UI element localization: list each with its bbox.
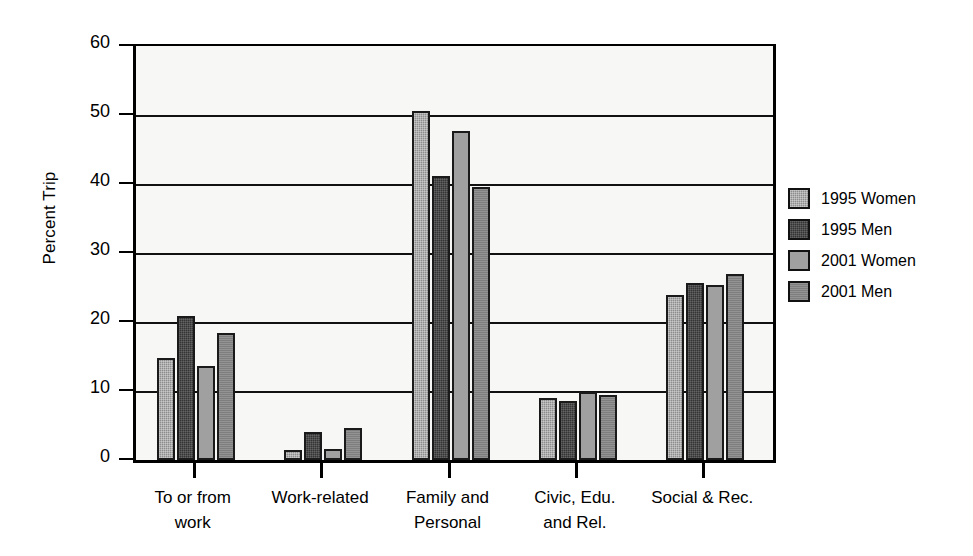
legend-label: 2001 Men <box>821 283 892 301</box>
y-tick-mark-30 <box>119 251 133 253</box>
x-tick-mark-4 <box>702 461 705 478</box>
legend-label: 2001 Women <box>821 252 916 270</box>
bar <box>284 450 302 460</box>
y-tick-mark-0 <box>119 458 133 460</box>
legend-swatch-icon <box>788 281 810 302</box>
plot-area <box>133 44 776 463</box>
bar <box>706 285 724 460</box>
legend-label: 1995 Women <box>821 190 916 208</box>
bar <box>452 131 470 460</box>
y-tick-label-40: 40 <box>58 171 110 189</box>
bar <box>726 274 744 460</box>
bar <box>412 111 430 460</box>
y-tick-mark-50 <box>119 113 133 115</box>
bar <box>217 333 235 460</box>
bar <box>324 449 342 460</box>
bar <box>666 295 684 460</box>
bar <box>432 176 450 460</box>
y-tick-label-50: 50 <box>58 102 110 120</box>
bar <box>304 432 322 460</box>
legend-item: 1995 Women <box>788 183 968 214</box>
legend-swatch-icon <box>788 219 810 240</box>
legend-item: 1995 Men <box>788 214 968 245</box>
bar <box>177 316 195 460</box>
y-tick-label-20: 20 <box>58 309 110 327</box>
x-tick-mark-1 <box>320 461 323 478</box>
legend-item: 2001 Women <box>788 245 968 276</box>
y-tick-mark-60 <box>119 44 133 46</box>
bar <box>686 283 704 460</box>
bar <box>344 428 362 460</box>
y-tick-label-60: 60 <box>58 33 110 51</box>
gridline-50 <box>136 115 773 117</box>
legend-swatch-icon <box>788 188 810 209</box>
x-tick-mark-2 <box>448 461 451 478</box>
bar <box>157 358 175 460</box>
bar <box>472 187 490 460</box>
x-tick-mark-3 <box>575 461 578 478</box>
x-axis-label: Social & Rec. <box>617 486 787 511</box>
y-tick-label-0: 0 <box>58 447 110 465</box>
legend-swatch-icon <box>788 250 810 271</box>
y-tick-label-30: 30 <box>58 240 110 258</box>
chart-legend: 1995 Women1995 Men2001 Women2001 Men <box>788 183 968 307</box>
bar <box>599 395 617 460</box>
y-tick-mark-40 <box>119 182 133 184</box>
bar <box>579 392 597 460</box>
y-tick-mark-20 <box>119 320 133 322</box>
bar <box>197 366 215 460</box>
bar <box>559 401 577 460</box>
legend-item: 2001 Men <box>788 276 968 307</box>
y-tick-label-10: 10 <box>58 378 110 396</box>
bar <box>539 398 557 460</box>
x-tick-mark-0 <box>193 461 196 478</box>
y-tick-mark-10 <box>119 389 133 391</box>
legend-label: 1995 Men <box>821 221 892 239</box>
bar-chart-figure: Percent Trip 0102030405060 To or fromwor… <box>0 0 973 556</box>
y-axis-title: Percent Trip <box>40 128 60 308</box>
